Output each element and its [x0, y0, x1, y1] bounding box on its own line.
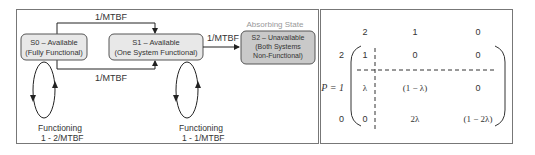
state-s0-subtitle: (Fully Functional) [25, 48, 83, 57]
col-header: 2 [362, 27, 367, 37]
loop-s0-label: Functioning [38, 123, 82, 133]
state-transition-diagram-panel: 1/MTBF 1/MTBF S0 – Available (Fully Func… [16, 9, 319, 144]
matrix-canvas: 2 1 0 2 P = 1 0 1 0 0 λ (1 − λ) 0 0 2λ (… [321, 10, 514, 145]
state-s1-subtitle: (One System Functional) [115, 48, 198, 57]
state-s2-line3: Non-Functional) [253, 52, 303, 60]
transition-label-top: 1/MTBF [95, 12, 128, 22]
matrix-cell: (1 − 2λ) [464, 114, 493, 124]
loop-arrow-up-icon [195, 81, 201, 88]
matrix-cell: 2λ [411, 114, 421, 124]
self-loop-s0 [33, 62, 55, 118]
loop-s1-prob: 1 - 1/MTBF [182, 133, 225, 143]
matrix-cell: 0 [412, 50, 417, 60]
matrix-cell: (1 − λ) [403, 83, 427, 93]
state-s2-title: S2 – Unavailable [252, 34, 305, 41]
transition-arrow-s0-s1-bottom [57, 60, 155, 69]
state-s2-line2: (Both Systems [255, 43, 301, 51]
matrix-cell: 0 [475, 83, 480, 93]
state-s0-title: S0 – Available [30, 38, 77, 47]
transition-arrow-s0-s1-top [57, 23, 155, 34]
loop-s1-label: Functioning [179, 123, 223, 133]
loop-arrow-down-icon [173, 95, 179, 102]
self-loop-s1 [176, 62, 198, 118]
transition-matrix-panel: 2 1 0 2 P = 1 0 1 0 0 λ (1 − λ) 0 0 2λ (… [320, 9, 513, 144]
left-parenthesis [351, 46, 361, 126]
row-header: 0 [339, 114, 344, 124]
row-header: 2 [339, 50, 344, 60]
state-s1-title: S1 – Available [132, 38, 179, 47]
col-header: 1 [412, 27, 417, 37]
matrix-label: P = 1 [321, 82, 344, 93]
col-header: 0 [475, 27, 480, 37]
loop-arrow-up-icon [52, 81, 58, 88]
transition-label-bottom: 1/MTBF [95, 73, 128, 83]
matrix-cell: λ [363, 83, 368, 93]
absorbing-state-label: Absorbing State [247, 20, 304, 29]
matrix-cell: 0 [475, 50, 480, 60]
right-parenthesis [495, 46, 505, 126]
matrix-cell: 0 [362, 114, 367, 124]
state-diagram-canvas: 1/MTBF 1/MTBF S0 – Available (Fully Func… [17, 10, 320, 145]
loop-arrow-down-icon [30, 95, 36, 102]
transition-label-s1-s2: 1/MTBF [207, 33, 240, 43]
matrix-cell: 1 [362, 50, 367, 60]
loop-s0-prob: 1 - 2/MTBF [41, 133, 84, 143]
